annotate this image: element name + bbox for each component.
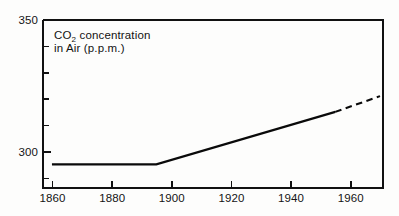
x-tick-label-1940: 1940 bbox=[278, 192, 304, 204]
chart-title-concentration: concentration bbox=[76, 29, 150, 41]
x-tick-label-1920: 1920 bbox=[219, 192, 245, 204]
x-tick-label-1960: 1960 bbox=[338, 192, 364, 204]
co2-concentration-line-chart: 350 300 1860 1880 1900 1920 1940 1960 CO… bbox=[0, 0, 399, 216]
chart-title-co-prefix: CO bbox=[54, 29, 72, 41]
y-tick-label-300: 300 bbox=[19, 146, 39, 158]
x-tick-label-1900: 1900 bbox=[159, 192, 185, 204]
x-tick-label-1860: 1860 bbox=[40, 192, 66, 204]
y-tick-label-350: 350 bbox=[19, 14, 39, 26]
chart-title-line-2: in Air (p.p.m.) bbox=[54, 42, 125, 54]
chart-figure: 350 300 1860 1880 1900 1920 1940 1960 CO… bbox=[0, 0, 399, 216]
x-tick-label-1880: 1880 bbox=[99, 192, 125, 204]
